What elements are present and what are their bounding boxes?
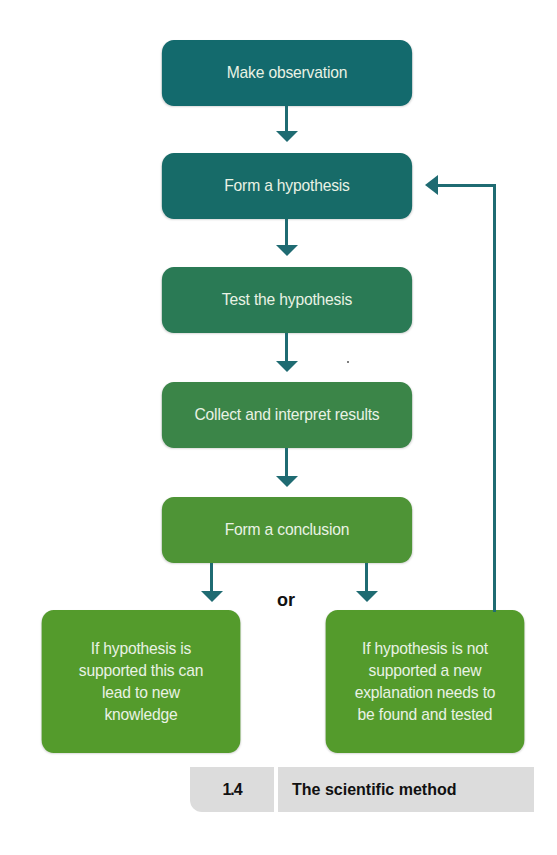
outcome-line: explanation needs to (355, 682, 496, 704)
outcome-line: be found and tested (358, 704, 493, 726)
step-label: Test the hypothesis (222, 289, 352, 311)
step-label: Form a hypothesis (224, 175, 350, 197)
outcome-line: supported this can (79, 660, 204, 682)
feedback-arrow-vertical (493, 184, 496, 612)
outcome-not-supported: If hypothesis is not supported a new exp… (326, 610, 525, 753)
arrow-line-left-branch (210, 563, 213, 592)
step-label: Form a conclusion (225, 519, 350, 541)
step-form-hypothesis: Form a hypothesis (162, 153, 412, 219)
arrow-left-icon (425, 175, 438, 195)
step-test-hypothesis: Test the hypothesis (162, 267, 412, 333)
arrow-line (285, 219, 288, 246)
outcome-line: If hypothesis is (91, 638, 192, 660)
outcome-line: knowledge (104, 704, 177, 726)
arrow-down-icon (356, 591, 378, 602)
arrow-down-icon (201, 591, 223, 602)
speck (347, 361, 349, 363)
arrow-down-icon (276, 131, 298, 142)
step-label: Make observation (227, 62, 348, 84)
arrow-down-icon (276, 245, 298, 256)
figure-title: The scientific method (278, 767, 534, 812)
outcome-line: lead to new (102, 682, 180, 704)
arrow-line (285, 333, 288, 362)
feedback-arrow-horizontal (436, 184, 496, 187)
outcome-line: supported a new (369, 660, 482, 682)
step-form-conclusion: Form a conclusion (162, 497, 412, 563)
arrow-down-icon (276, 476, 298, 487)
outcome-supported: If hypothesis is supported this can lead… (42, 610, 241, 753)
arrow-line-right-branch (365, 563, 368, 592)
step-make-observation: Make observation (162, 40, 412, 106)
figure-number: 1.4 (190, 767, 274, 812)
arrow-line (285, 106, 288, 132)
or-label: or (277, 590, 295, 611)
step-label: Collect and interpret results (194, 404, 379, 426)
step-collect-results: Collect and interpret results (162, 382, 412, 448)
outcome-line: If hypothesis is not (362, 638, 488, 660)
arrow-line (285, 448, 288, 476)
arrow-down-icon (276, 361, 298, 372)
